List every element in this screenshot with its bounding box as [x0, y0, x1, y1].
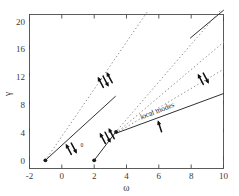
- spin-up-arrowhead-icon: [64, 143, 70, 149]
- y-tick-label-8: 8: [21, 100, 26, 110]
- x-axis-title: ω: [123, 183, 129, 193]
- chart-canvas: -2 0 2 4 6 8 10 0 4 8 12 16 20 ω γ: [0, 0, 239, 196]
- three-magnon-foot-marker: [92, 158, 96, 162]
- spin-down-arrowhead-icon: [205, 79, 211, 85]
- spin-down-arrowhead-icon: [105, 82, 111, 88]
- solid-branches: [45, 10, 223, 160]
- x-tick-labels: -2 0 2 4 6 8 10: [26, 171, 229, 181]
- y-tick-labels: 0 4 8 12 16 20: [16, 17, 26, 166]
- annotation-single-magnon: [156, 120, 164, 133]
- x-tick-label-4: 4: [124, 171, 129, 181]
- y-tick-label-4: 4: [21, 128, 26, 138]
- spin-up-arrowhead-icon: [156, 120, 161, 125]
- x-tick-label-6: 6: [157, 171, 162, 181]
- annotation-two-magnon-zero: 0: [64, 140, 84, 157]
- spin-down-arrowhead-icon: [73, 149, 79, 155]
- y-tick-label-0: 0: [21, 156, 26, 166]
- spin-up-arrowhead-icon: [98, 132, 104, 138]
- lower-branch-solid: [45, 96, 115, 160]
- origin-node-marker: [44, 158, 48, 162]
- phase-diagram-figure: -2 0 2 4 6 8 10 0 4 8 12 16 20 ω γ: [0, 0, 239, 196]
- spin-up-arrowhead-2-icon: [107, 127, 113, 133]
- spin-up-arrowhead-icon: [196, 73, 202, 79]
- y-tick-label-20: 20: [16, 17, 26, 27]
- y-tick-label-16: 16: [16, 44, 26, 54]
- three-magnon-solid: [94, 133, 115, 161]
- x-tick-label-0: 0: [60, 171, 65, 181]
- branch-junction-marker: [114, 130, 118, 134]
- dotted-branch-1: [45, 10, 148, 160]
- x-axis-ticks-top: [62, 15, 191, 19]
- x-axis-ticks: [30, 165, 224, 169]
- y-tick-label-12: 12: [16, 72, 25, 82]
- x-tick-label-2: 2: [92, 171, 97, 181]
- y-axis-title: γ: [3, 92, 13, 97]
- spin-up-arrowhead-icon: [96, 76, 102, 82]
- dotted-branch-3: [116, 42, 224, 133]
- x-tick-label--2: -2: [26, 171, 34, 181]
- x-tick-label-8: 8: [189, 171, 194, 181]
- x-tick-label-10: 10: [219, 171, 229, 181]
- plot-frame: [30, 15, 224, 169]
- local-modes-solid: [116, 94, 223, 134]
- two-magnon-subscript: 0: [81, 142, 84, 148]
- annotation-three-magnon-upper: [96, 71, 115, 90]
